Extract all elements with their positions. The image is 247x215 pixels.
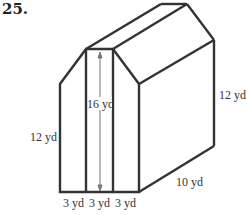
- label-depth: 10 yd: [176, 175, 203, 189]
- label-base-right: 3 yd: [115, 196, 136, 210]
- back-roof-right: [187, 4, 214, 40]
- label-wall-height-left: 12 yd: [30, 130, 57, 144]
- label-wall-height-right: 12 yd: [219, 88, 246, 102]
- label-base-left: 3 yd: [63, 196, 84, 210]
- height-dimension-arrow: [98, 52, 102, 191]
- label-front-height: 16 yd: [87, 97, 114, 111]
- label-base-middle: 3 yd: [89, 196, 110, 210]
- edge-eave-right: [139, 40, 214, 84]
- house-prism-figure: 16 yd 12 yd 12 yd 10 yd 3 yd 3 yd 3 yd: [0, 0, 247, 215]
